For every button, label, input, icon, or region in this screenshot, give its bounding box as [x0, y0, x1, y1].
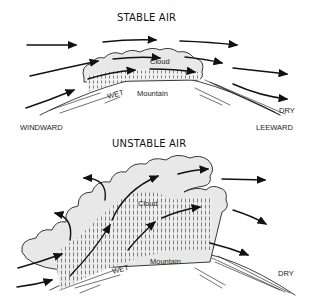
unstable-air-title: UNSTABLE AIR [112, 138, 186, 149]
windward-label: WINDWARD [20, 123, 63, 132]
mountain-label: Mountain [150, 257, 181, 266]
cloud-label: Cloud [138, 199, 158, 208]
dry-label: DRY [279, 106, 295, 115]
unstable-air-panel: UNSTABLE AIR Cloud Mountain WET DRY [17, 138, 295, 295]
dry-label: DRY [278, 269, 294, 278]
wet-label: WET [106, 88, 125, 101]
stable-air-panel: STABLE AIR Cloud Mountain WET DRY WINDWA… [20, 12, 295, 132]
mountain-label: Mountain [137, 89, 168, 98]
stable-air-title: STABLE AIR [117, 12, 176, 23]
orographic-diagram: STABLE AIR Cloud Mountain WET DRY WINDWA… [0, 0, 314, 303]
leeward-label: LEEWARD [256, 123, 293, 132]
